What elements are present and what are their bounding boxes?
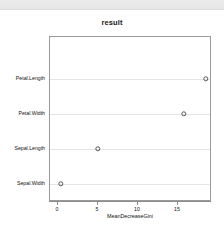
plot-canvas: result Petal.Length Petal.Width Sepal.Le… xyxy=(0,10,224,252)
data-point-sepal-width[interactable] xyxy=(58,181,63,186)
gridline-sepal-width xyxy=(50,184,210,185)
x-tick-10 xyxy=(137,201,138,205)
data-point-petal-width[interactable] xyxy=(181,111,186,116)
x-tick-label-15: 15 xyxy=(174,206,180,212)
y-tick-label-petal-width: Petal.Width xyxy=(18,110,45,116)
data-point-sepal-length[interactable] xyxy=(95,146,100,151)
x-tick-5 xyxy=(97,201,98,205)
gridline-petal-length xyxy=(50,79,210,80)
y-tick-label-sepal-length: Sepal.Length xyxy=(14,145,45,151)
plot-panel xyxy=(49,36,211,201)
x-axis-title: MeanDecreaseGini xyxy=(49,213,211,219)
x-tick-label-5: 5 xyxy=(96,206,99,212)
x-axis-line: 0 5 10 15 xyxy=(49,201,211,202)
chart-title: result xyxy=(0,18,224,27)
y-tick-label-sepal-width: Sepal.Width xyxy=(17,180,45,186)
x-tick-label-10: 10 xyxy=(134,206,140,212)
y-tick-label-petal-length: Petal.Length xyxy=(16,75,45,81)
window-titlebar xyxy=(0,0,224,10)
y-axis-labels: Petal.Length Petal.Width Sepal.Length Se… xyxy=(0,36,45,201)
x-tick-15 xyxy=(177,201,178,205)
x-tick-0 xyxy=(57,201,58,205)
gridline-sepal-length xyxy=(50,149,210,150)
x-tick-label-0: 0 xyxy=(56,206,59,212)
data-point-petal-length[interactable] xyxy=(203,76,208,81)
